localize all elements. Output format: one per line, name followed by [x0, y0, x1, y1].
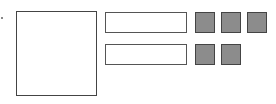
- large-box: [16, 11, 97, 96]
- filled-square-row2-2: [221, 44, 241, 65]
- dot-marker: [1, 17, 3, 19]
- bar-bottom: [105, 44, 187, 65]
- filled-square-row1-2: [221, 12, 241, 33]
- bar-top: [105, 12, 187, 33]
- filled-square-row2-1: [195, 44, 215, 65]
- filled-square-row1-1: [195, 12, 215, 33]
- filled-square-row1-3: [247, 12, 267, 33]
